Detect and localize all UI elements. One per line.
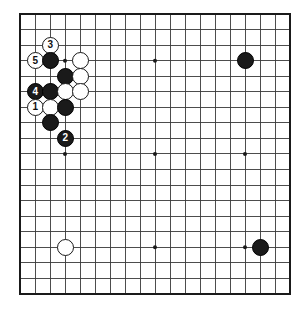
stone-white-move-1[interactable]: 1 bbox=[27, 99, 44, 116]
star-point bbox=[243, 245, 247, 249]
stone-white[interactable] bbox=[72, 83, 89, 100]
stone-white[interactable] bbox=[57, 83, 74, 100]
stone-move-number: 2 bbox=[62, 133, 67, 143]
stone-black[interactable] bbox=[42, 52, 59, 69]
stone-white[interactable] bbox=[42, 99, 59, 116]
stone-black-move-2[interactable]: 2 bbox=[57, 130, 74, 147]
stone-black-move-4[interactable]: 4 bbox=[27, 83, 44, 100]
stone-move-number: 3 bbox=[47, 40, 52, 50]
stone-white-move-3[interactable]: 3 bbox=[42, 37, 59, 54]
stone-black[interactable] bbox=[57, 99, 74, 116]
stone-white[interactable] bbox=[57, 239, 74, 256]
stone-black[interactable] bbox=[42, 114, 59, 131]
star-point bbox=[153, 245, 157, 249]
star-point bbox=[63, 59, 67, 63]
stone-white[interactable] bbox=[72, 68, 89, 85]
stone-move-number: 4 bbox=[32, 87, 37, 97]
star-point bbox=[63, 152, 67, 156]
stone-black[interactable] bbox=[42, 83, 59, 100]
stone-black[interactable] bbox=[57, 68, 74, 85]
stone-black[interactable] bbox=[252, 239, 269, 256]
stone-black[interactable] bbox=[237, 52, 254, 69]
star-point bbox=[153, 152, 157, 156]
stone-white[interactable] bbox=[72, 52, 89, 69]
stone-move-number: 5 bbox=[32, 56, 37, 66]
star-point bbox=[243, 152, 247, 156]
stone-white-move-5[interactable]: 5 bbox=[27, 52, 44, 69]
stone-move-number: 1 bbox=[32, 102, 37, 112]
star-point bbox=[153, 59, 157, 63]
go-board-diagram: 35412 bbox=[0, 0, 308, 311]
